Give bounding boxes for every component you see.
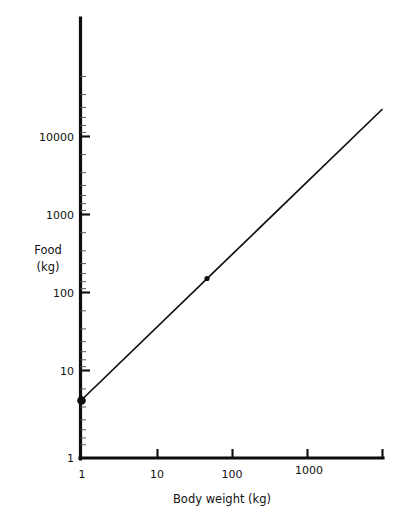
y-tick-label-1: 1	[67, 452, 74, 465]
data-point-marker-mid	[204, 276, 209, 281]
x-tick-label-1000: 1000	[295, 464, 323, 477]
x-tick-label-1: 1	[79, 468, 86, 481]
y-tick-label-10000: 10000	[39, 131, 74, 144]
x-tick-label-100: 100	[222, 468, 243, 481]
data-point-marker-low	[77, 396, 86, 405]
x-tick-label-10: 10	[150, 468, 164, 481]
log-log-chart: 10000 1000 100 10 1 1 10 100 1000 Food (…	[0, 0, 400, 518]
y-tick-label-1000: 1000	[46, 209, 74, 222]
data-series-line	[81, 110, 382, 401]
y-axis-title-line2: (kg)	[37, 260, 60, 274]
x-axis-title: Body weight (kg)	[173, 492, 271, 506]
y-axis-title-line1: Food	[34, 243, 62, 257]
y-tick-label-10: 10	[60, 365, 74, 378]
chart-canvas: 10000 1000 100 10 1 1 10 100 1000 Food (…	[0, 0, 400, 518]
y-tick-label-100: 100	[53, 287, 74, 300]
